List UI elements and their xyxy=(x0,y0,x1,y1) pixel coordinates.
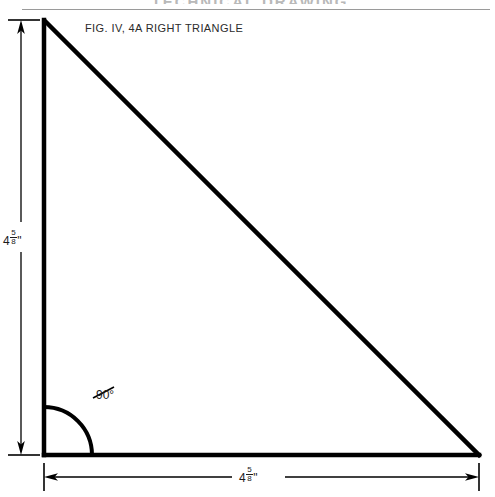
horizontal-dimension-line xyxy=(44,463,479,491)
horizontal-dim-whole: 4 xyxy=(239,471,246,485)
horizontal-dimension-label: 458" xyxy=(239,466,257,485)
vertical-dim-fraction: 58 xyxy=(10,229,16,246)
vertical-dimension-label: 458" xyxy=(3,229,21,248)
horizontal-dim-denominator: 8 xyxy=(246,475,252,483)
figure-caption: FIG. IV, 4A RIGHT TRIANGLE xyxy=(85,22,243,34)
vertical-dim-whole: 4 xyxy=(3,234,10,248)
right-angle-arc xyxy=(44,407,92,455)
angle-label: 90° xyxy=(96,388,114,402)
right-triangle-figure xyxy=(0,0,495,497)
horizontal-dim-fraction: 58 xyxy=(246,466,252,483)
vertical-dim-denominator: 8 xyxy=(10,238,16,246)
vertical-dim-unit: " xyxy=(17,234,21,248)
horizontal-dim-unit: " xyxy=(253,471,257,485)
figure-page: TECHNICAL DRAWING FIG. xyxy=(0,0,495,497)
angle-value: 90° xyxy=(96,388,114,402)
